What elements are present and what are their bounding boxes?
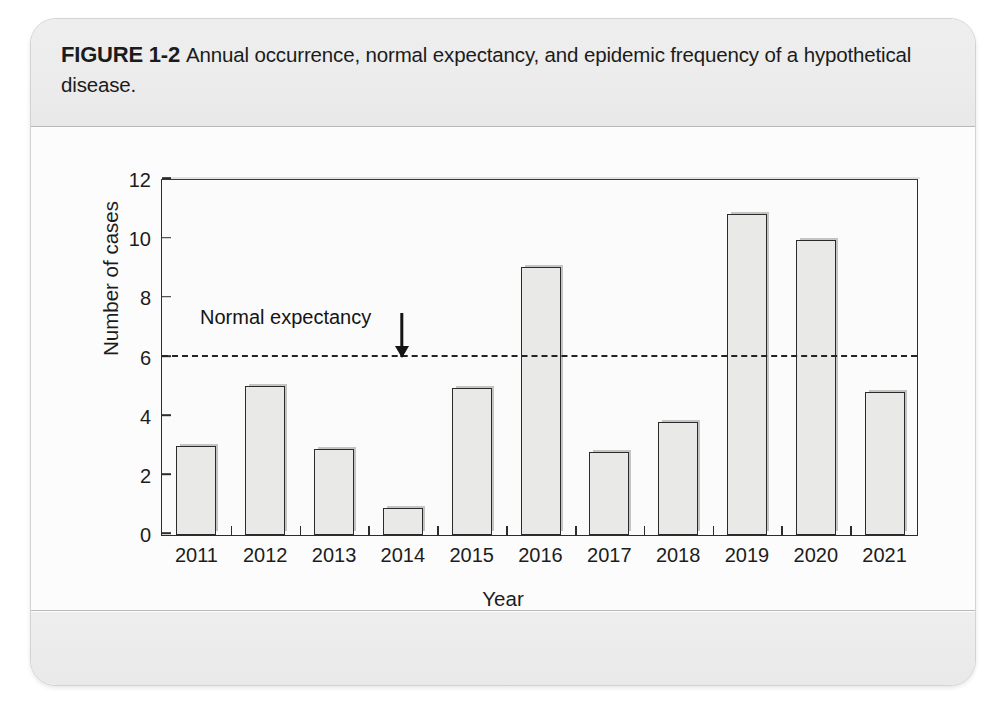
bar-2019: [727, 214, 767, 535]
x-axis-title: Year: [31, 587, 975, 611]
x-axis-tick-label: 2021: [862, 544, 907, 567]
y-axis-tick-label: 0: [140, 524, 151, 547]
figure-card: FIGURE 1-2Annual occurrence, normal expe…: [30, 18, 976, 686]
x-axis-tick-mark: [437, 526, 439, 535]
y-axis-tick-label: 8: [140, 287, 151, 310]
figure-plot-body: Number of cases Year 0246810122011201220…: [31, 128, 975, 611]
x-axis-tick-mark: [781, 526, 783, 535]
x-axis-tick-label: 2014: [381, 544, 426, 567]
x-axis-tick-label: 2018: [656, 544, 701, 567]
x-axis-tick-mark: [231, 526, 233, 535]
y-axis-tick-label: 2: [140, 464, 151, 487]
x-axis-tick-label: 2016: [518, 544, 563, 567]
y-axis-tick-mark: [162, 414, 171, 416]
y-axis-tick-mark: [162, 473, 171, 475]
bar-2017: [589, 452, 629, 535]
x-axis-tick-label: 2011: [175, 544, 218, 567]
x-axis-tick-label: 2015: [449, 544, 494, 567]
x-axis-tick-mark: [850, 526, 852, 535]
x-axis-tick-mark: [575, 526, 577, 535]
figure-caption-text: Annual occurrence, normal expectancy, an…: [61, 43, 911, 96]
x-axis-tick-label: 2012: [243, 544, 288, 567]
y-axis-tick-label: 6: [140, 346, 151, 369]
x-axis-tick-mark: [506, 526, 508, 535]
bar-2021: [865, 392, 905, 535]
chart-plot-area: 0246810122011201220132014201520162017201…: [161, 179, 918, 536]
x-axis-tick-label: 2013: [312, 544, 357, 567]
bar-2014: [383, 508, 423, 535]
x-axis-tick-mark: [713, 526, 715, 535]
bar-2011: [176, 446, 216, 535]
x-axis-tick-label: 2020: [794, 544, 839, 567]
y-axis-tick-label: 4: [140, 405, 151, 428]
y-axis-tick-label: 12: [129, 169, 151, 192]
bar-2012: [245, 386, 285, 535]
bar-2018: [658, 422, 698, 535]
y-axis-tick-mark: [162, 178, 171, 180]
x-axis-tick-label: 2019: [725, 544, 770, 567]
bar-2015: [452, 388, 492, 535]
bar-2013: [314, 449, 354, 535]
x-axis-tick-mark: [300, 526, 302, 535]
normal-expectancy-arrow-icon: [395, 313, 409, 357]
normal-expectancy-line: [162, 355, 917, 357]
y-axis-tick-label: 10: [129, 228, 151, 251]
y-axis-tick-mark: [162, 533, 171, 535]
figure-caption: FIGURE 1-2Annual occurrence, normal expe…: [61, 39, 935, 99]
figure-footer-band: [31, 612, 975, 686]
figure-number-label: FIGURE 1-2: [61, 42, 180, 67]
x-axis-tick-mark: [368, 526, 370, 535]
arrow-head: [395, 346, 409, 358]
y-axis-tick-mark: [162, 237, 171, 239]
figure-screenshot: FIGURE 1-2Annual occurrence, normal expe…: [0, 0, 1000, 714]
y-axis-title: Number of cases: [99, 201, 123, 356]
normal-expectancy-label: Normal expectancy: [200, 306, 371, 329]
bar-2020: [796, 240, 836, 535]
x-axis-tick-mark: [644, 526, 646, 535]
figure-caption-band: FIGURE 1-2Annual occurrence, normal expe…: [31, 19, 975, 127]
x-axis-tick-label: 2017: [587, 544, 632, 567]
y-axis-tick-mark: [162, 296, 171, 298]
bar-2016: [521, 267, 561, 535]
